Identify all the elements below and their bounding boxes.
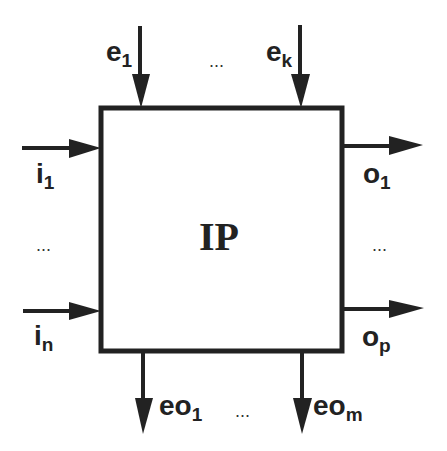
data-output-label-1: o1: [363, 160, 391, 192]
event-output-label-m: eom: [313, 392, 363, 424]
ip-block-diagram: IP e1 ... ek i1 ... in o1 ... op eo1 ...…: [0, 0, 447, 451]
label-subscript: m: [346, 404, 363, 425]
label-subscript: 1: [44, 172, 55, 193]
event-input-arrow-k: [291, 25, 310, 108]
event-input-label-1: e1: [106, 38, 132, 70]
label-subscript: 1: [192, 404, 203, 425]
data-output-arrow-p: [342, 300, 424, 318]
label-base: e: [106, 36, 122, 67]
block-label: IP: [199, 217, 239, 257]
label-base: i: [36, 158, 44, 189]
data-input-arrow-1: [22, 139, 101, 158]
label-subscript: 1: [380, 172, 391, 193]
label-subscript: p: [379, 335, 391, 356]
data-output-arrow-1: [342, 136, 423, 155]
data-input-label-1: i1: [36, 160, 54, 192]
label-base: o: [363, 158, 380, 189]
data-output-ellipsis: ...: [372, 236, 387, 254]
event-output-arrow-m: [293, 351, 312, 434]
data-input-ellipsis: ...: [36, 236, 51, 254]
event-input-ellipsis: ...: [209, 52, 224, 70]
label-subscript: 1: [122, 50, 133, 71]
event-output-label-1: eo1: [159, 392, 202, 424]
label-base: o: [362, 321, 379, 352]
label-base: i: [34, 320, 42, 351]
label-base: eo: [159, 390, 192, 421]
label-base: e: [266, 36, 282, 67]
event-output-arrow-1: [135, 351, 153, 434]
label-subscript: n: [42, 334, 54, 355]
label-subscript: k: [282, 50, 293, 71]
data-input-arrow-n: [23, 302, 101, 320]
data-input-label-n: in: [34, 322, 53, 354]
event-input-arrow-1: [132, 26, 150, 108]
event-output-ellipsis: ...: [235, 402, 250, 420]
event-input-label-k: ek: [266, 38, 292, 70]
data-output-label-p: op: [362, 323, 391, 355]
label-base: eo: [313, 390, 346, 421]
